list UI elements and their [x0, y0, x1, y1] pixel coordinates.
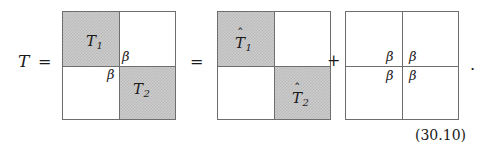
- matrix-T-label-T2: T2: [133, 82, 150, 99]
- matrix-T-label-T1-base: T: [86, 32, 96, 50]
- matrix-T-label-T2-base: T: [133, 80, 143, 98]
- matrix-T-beta-bottom-left: β: [107, 68, 115, 81]
- block-matrix-beta: β β β β: [345, 11, 459, 120]
- matrix-beta-label-top-left: β: [386, 50, 394, 63]
- matrix-T-hat-label-T2: ˆT2: [292, 91, 309, 108]
- matrix-T-hat-horizontal-rule: [218, 66, 330, 67]
- matrix-T-horizontal-rule: [63, 66, 175, 67]
- matrix-T-hat-label-T1: ˆT1: [235, 36, 252, 53]
- hat-accent-icon: ˆ: [237, 27, 244, 40]
- hat-accent-icon: ˆ: [294, 82, 301, 95]
- equation-number: (30.10): [415, 128, 466, 142]
- matrix-T-hat-label-T1-subscript: 1: [246, 42, 252, 53]
- matrix-beta-label-bottom-left: β: [386, 69, 394, 82]
- matrix-T-label-T1: T1: [86, 34, 103, 51]
- block-matrix-T-hat: ˆT1 ˆT2: [217, 11, 331, 120]
- matrix-T-hat-label-T2-hatwrap: ˆT: [292, 91, 302, 106]
- matrix-T-hat-label-T2-subscript: 2: [303, 97, 309, 108]
- matrix-T-label-T1-subscript: 1: [97, 40, 103, 51]
- block-matrix-T: T1 T2 β β: [62, 11, 176, 120]
- matrix-beta-label-bottom-right: β: [409, 69, 417, 82]
- matrix-beta-horizontal-rule: [346, 66, 458, 67]
- equals-sign-1: =: [38, 54, 51, 70]
- matrix-T-hat-quadrant-bottom-left: [218, 66, 274, 120]
- equals-sign-2: =: [190, 54, 203, 70]
- matrix-beta-label-top-right: β: [409, 50, 417, 63]
- plus-sign: +: [327, 53, 340, 69]
- matrix-T-beta-top-right: β: [122, 50, 130, 63]
- matrix-T-label-T2-subscript: 2: [144, 88, 150, 99]
- lead-symbol-T: T: [18, 53, 29, 70]
- equation-figure: T = T1 T2 β β = ˆT1 ˆT2 + β β: [0, 0, 498, 154]
- matrix-T-hat-label-T1-hatwrap: ˆT: [235, 36, 245, 51]
- trailing-period: .: [470, 57, 475, 73]
- matrix-T-hat-quadrant-top-right: [274, 12, 330, 66]
